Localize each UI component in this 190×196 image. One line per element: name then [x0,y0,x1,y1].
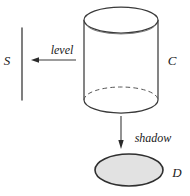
label-c: C [168,53,177,68]
cylinder-bottom-back-arc [84,87,158,100]
shadow-disk-ellipse [95,154,163,186]
shadow-arrow [118,116,123,149]
cylinder-shadow-diagram: S C D level shadow [0,0,190,196]
cylinder-top-ellipse [84,7,158,33]
label-level: level [51,43,74,57]
cylinder-bottom-front-arc [84,100,158,113]
figure-canvas: S C D level shadow [0,0,190,196]
label-s: S [4,53,11,68]
level-arrow [31,57,76,62]
cylinder-shape [84,7,158,113]
label-d: D [171,165,182,180]
label-shadow: shadow [135,131,172,145]
